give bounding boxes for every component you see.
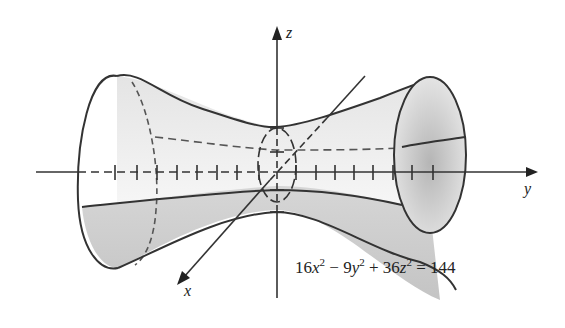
y-axis-arrowhead: [526, 167, 538, 177]
surface-lower: [82, 186, 440, 300]
hyperboloid-diagram: [0, 0, 565, 328]
equation: 16x2 − 9y2 + 36z2 = 144: [295, 256, 456, 278]
z-axis-arrowhead: [272, 26, 282, 40]
x-axis-label: x: [184, 282, 191, 300]
y-axis-label: y: [524, 180, 531, 198]
z-axis-label: z: [286, 24, 292, 42]
right-end-ellipse: [394, 77, 466, 233]
